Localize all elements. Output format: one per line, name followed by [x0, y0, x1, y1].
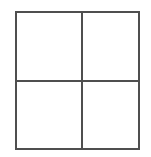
grid-cell-bottom-right: [83, 82, 138, 148]
grid-cell-top-right: [83, 13, 138, 80]
grid-cell-bottom-left: [17, 82, 81, 148]
grid-cell-top-left: [17, 13, 81, 80]
grid-divider-horizontal: [17, 80, 138, 82]
grid-square-outline: [15, 11, 140, 150]
figure-canvas: [0, 0, 151, 157]
